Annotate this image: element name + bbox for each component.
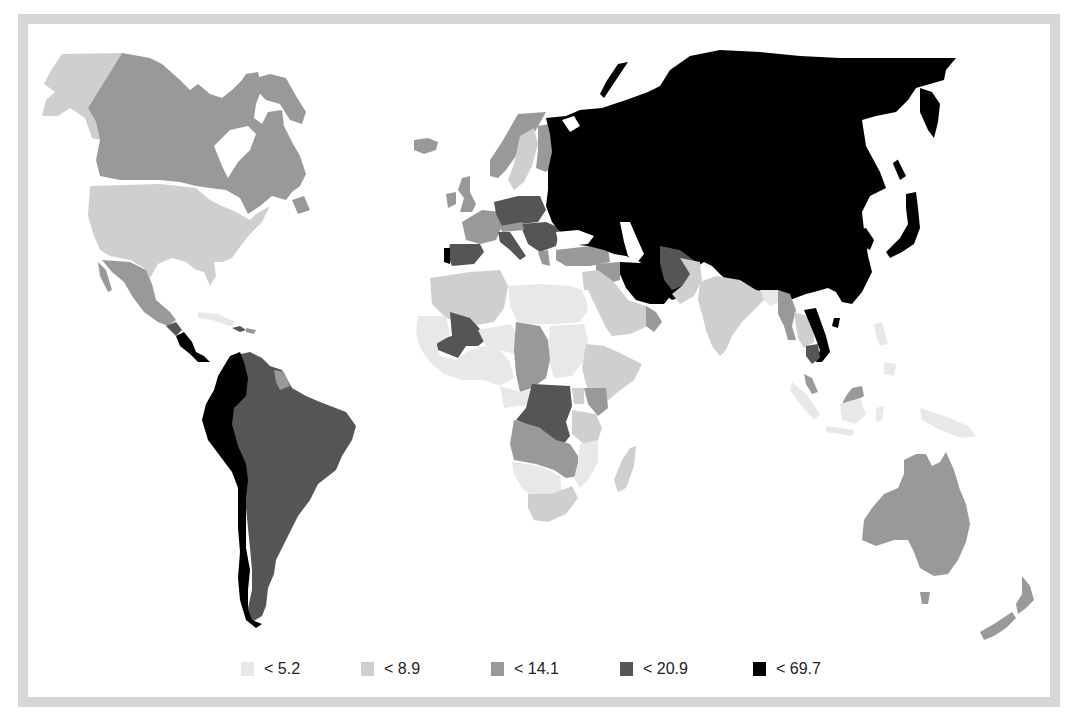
region-papua	[920, 408, 976, 438]
region-uganda	[572, 388, 584, 404]
region-chad	[514, 322, 550, 392]
region-cuba	[198, 312, 236, 326]
region-taiwan	[832, 318, 840, 328]
legend-label: < 69.7	[776, 659, 821, 679]
region-spain	[448, 244, 484, 266]
region-florida	[204, 262, 216, 286]
oceania	[862, 452, 1034, 640]
legend-item: < 5.2	[241, 659, 300, 679]
region-oman	[646, 306, 662, 332]
legend: < 5.2 < 8.9 < 14.1 < 20.9 < 69.7	[0, 659, 1072, 679]
region-java	[826, 426, 854, 436]
region-philippines	[874, 322, 888, 346]
region-italy	[498, 232, 526, 260]
region-malaysia	[804, 374, 818, 394]
region-mozambique	[574, 440, 598, 488]
africa-middle-east	[416, 270, 662, 522]
legend-item: < 20.9	[620, 659, 688, 679]
legend-swatch-icon	[361, 662, 374, 676]
region-nz-south	[980, 612, 1016, 640]
region-ireland	[446, 192, 456, 208]
region-sudan	[548, 324, 588, 378]
region-portugal	[444, 248, 450, 264]
world-map	[0, 0, 1072, 718]
region-central-america	[176, 332, 210, 362]
legend-swatch-icon	[491, 662, 504, 676]
legend-label: < 5.2	[264, 659, 300, 679]
region-newfoundland	[292, 196, 310, 214]
legend-item: < 14.1	[491, 659, 559, 679]
legend-swatch-icon	[753, 662, 766, 676]
region-france	[462, 210, 502, 244]
region-madagascar	[614, 446, 636, 492]
legend-swatch-icon	[620, 662, 633, 676]
legend-item: < 69.7	[753, 659, 821, 679]
region-greece	[538, 250, 550, 266]
legend-item: < 8.9	[361, 659, 420, 679]
region-nz-north	[1016, 576, 1034, 614]
south-america	[202, 352, 356, 628]
region-kenya	[584, 388, 608, 416]
region-uk	[458, 176, 476, 212]
north-america	[42, 53, 310, 362]
region-tasmania	[920, 592, 930, 604]
region-central-europe	[494, 196, 546, 226]
region-iceland	[414, 138, 438, 154]
region-dominican	[246, 328, 256, 334]
region-sulawesi	[876, 406, 884, 422]
region-mexico	[102, 260, 176, 326]
region-japan	[886, 192, 920, 258]
legend-label: < 14.1	[514, 659, 559, 679]
region-novaya-zemlya	[600, 62, 628, 98]
legend-label: < 20.9	[643, 659, 688, 679]
legend-label: < 8.9	[384, 659, 420, 679]
legend-swatch-icon	[241, 662, 254, 676]
region-hispaniola	[232, 326, 246, 332]
region-balkans	[520, 222, 560, 252]
region-kamchatka	[920, 88, 940, 138]
region-australia	[862, 452, 970, 576]
region-libya-egypt	[508, 284, 588, 324]
region-mindanao	[884, 362, 896, 376]
